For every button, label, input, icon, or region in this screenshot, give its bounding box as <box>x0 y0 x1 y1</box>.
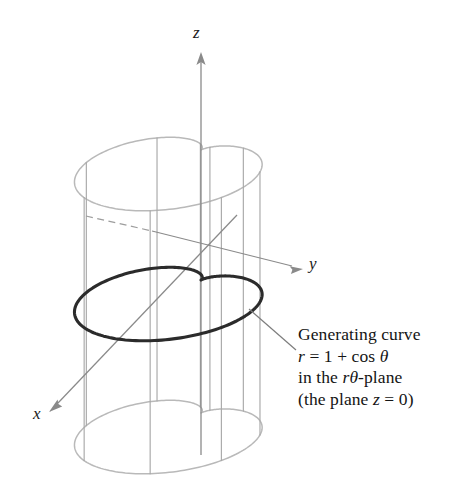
cylinder-cardioid-figure <box>0 0 460 500</box>
annotation-line-equation: r = 1 + cos θ <box>298 346 460 368</box>
annotation-line-generating-curve: Generating curve <box>298 324 460 346</box>
generating-curve-cardioid <box>74 267 262 341</box>
y-axis-label: y <box>309 254 317 274</box>
plane-prefix: in the <box>298 367 342 387</box>
cylinder-ruling-lines <box>84 138 260 474</box>
plane-suffix: -plane <box>358 367 402 387</box>
annotation-leader-line <box>249 309 296 350</box>
generating-curve-annotation: Generating curve r = 1 + cos θ in the rθ… <box>298 324 460 410</box>
annotation-line-z-equals-zero: (the plane z = 0) <box>298 389 460 411</box>
coordinate-axes <box>49 52 303 455</box>
equation-theta: θ <box>380 346 389 366</box>
equation-body: = 1 + cos <box>305 346 380 366</box>
y-axis-hidden-segment <box>86 216 152 231</box>
annotation-text-1: Generating curve <box>298 324 421 344</box>
x-axis-label: x <box>33 404 41 424</box>
zplane-variable-z: z <box>373 389 380 409</box>
zplane-suffix: = 0) <box>380 389 414 409</box>
y-axis-line <box>152 231 292 266</box>
bottom-cardioid-rim <box>74 400 262 474</box>
zplane-prefix: (the plane <box>298 389 373 409</box>
top-cardioid-rim <box>74 137 262 211</box>
plane-variable-theta: θ <box>349 367 358 387</box>
annotation-line-plane: in the rθ-plane <box>298 367 460 389</box>
equation-variable-r: r <box>298 346 305 366</box>
z-axis-label: z <box>193 23 200 43</box>
y-axis-arrowhead <box>290 266 303 274</box>
